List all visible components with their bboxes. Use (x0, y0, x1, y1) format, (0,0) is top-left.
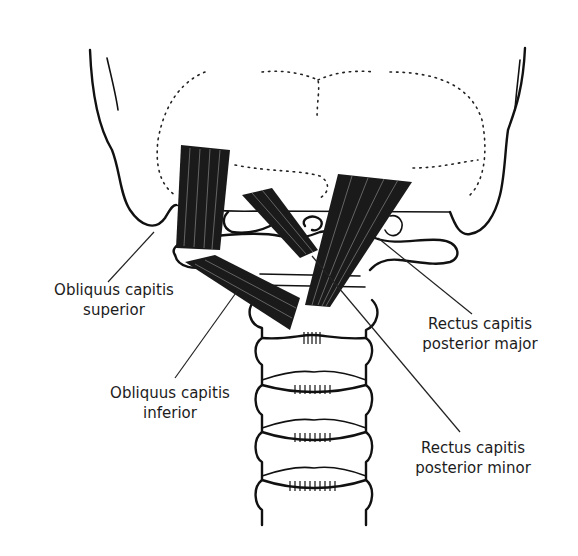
muscle-obliquus-capitis-superior (176, 145, 230, 250)
leader-obliquus-capitis-superior (108, 232, 154, 282)
muscle-obliquus-capitis-inferior (185, 255, 300, 330)
label-line2: superior (40, 300, 188, 320)
label-line1: Obliquus capitis (96, 383, 244, 403)
anatomy-figure: Obliquus capitis superior Obliquus capit… (0, 0, 578, 556)
label-line2: posterior minor (393, 458, 553, 478)
cervical-vertebrae (250, 300, 378, 525)
label-line1: Obliquus capitis (40, 280, 188, 300)
label-obliquus-capitis-inferior: Obliquus capitis inferior (96, 383, 244, 423)
label-obliquus-capitis-superior: Obliquus capitis superior (40, 280, 188, 320)
label-line1: Rectus capitis (405, 314, 555, 334)
label-line2: inferior (96, 403, 244, 423)
label-line1: Rectus capitis (393, 438, 553, 458)
label-rectus-capitis-posterior-minor: Rectus capitis posterior minor (393, 438, 553, 478)
label-line2: posterior major (405, 334, 555, 354)
label-rectus-capitis-posterior-major: Rectus capitis posterior major (405, 314, 555, 354)
skull (90, 48, 525, 234)
muscle-rectus-capitis-posterior-minor (242, 188, 318, 258)
